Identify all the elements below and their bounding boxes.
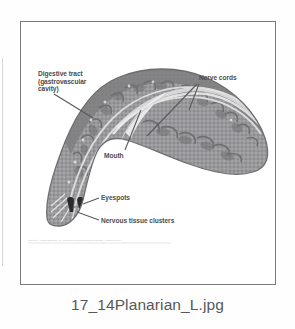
scanned-page: Digestive tract (gastrovascular cavity) … bbox=[0, 0, 295, 329]
leader-eyespots bbox=[83, 198, 99, 204]
label-digestive-tract: Digestive tract (gastrovascular cavity) bbox=[38, 70, 124, 93]
image-filename-caption: 17_14Planarian_L.jpg bbox=[0, 296, 295, 314]
label-mouth: Mouth bbox=[104, 152, 150, 160]
leader-nervous-tissue bbox=[77, 212, 99, 220]
copyright-credit-line: Copyright © Pearson Education, Inc., pub… bbox=[28, 239, 178, 243]
figure-frame: Digestive tract (gastrovascular cavity) … bbox=[20, 21, 276, 285]
label-nerve-cords: Nerve cords bbox=[199, 74, 269, 82]
label-eyespots: Eyespots bbox=[101, 194, 161, 202]
scan-artifact-line bbox=[2, 58, 3, 266]
planarian-diagram: Digestive tract (gastrovascular cavity) … bbox=[21, 22, 275, 284]
label-nervous-tissue-clusters: Nervous tissue clusters bbox=[101, 217, 221, 225]
